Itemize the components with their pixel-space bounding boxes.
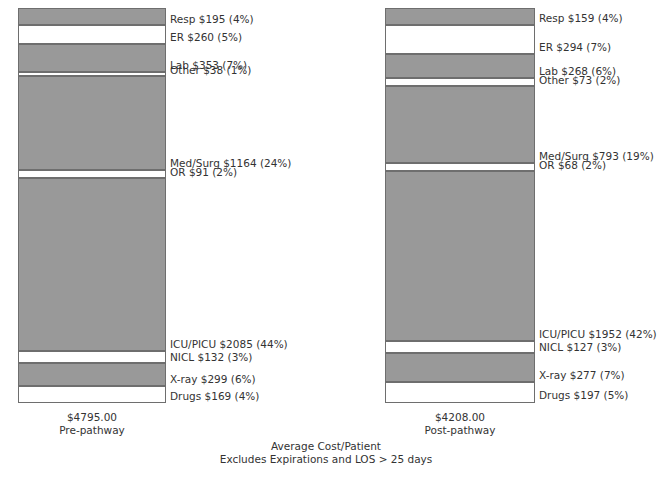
segment-label-pre-pathway: Resp $195 (4%) <box>170 14 254 25</box>
bar-segment-pre-pathway[interactable] <box>19 76 165 170</box>
stacked-bar-pre-pathway[interactable] <box>18 8 166 403</box>
bar-segment-post-pathway[interactable] <box>386 353 534 381</box>
segment-label-post-pathway: OR $68 (2%) <box>539 160 606 171</box>
bar-segment-pre-pathway[interactable] <box>19 170 165 178</box>
segment-label-pre-pathway: X-ray $299 (6%) <box>170 374 256 385</box>
total-caption-post-pathway: Post-pathway <box>385 424 535 437</box>
segment-label-post-pathway: Drugs $197 (5%) <box>539 390 628 401</box>
chart-column-post-pathway: Resp $159 (4%)ER $294 (7%)Lab $268 (6%)O… <box>385 8 535 403</box>
bar-segment-post-pathway[interactable] <box>386 86 534 163</box>
bar-segment-post-pathway[interactable] <box>386 382 534 402</box>
bar-segment-post-pathway[interactable] <box>386 25 534 53</box>
total-amount-pre-pathway: $4795.00 <box>18 411 166 424</box>
bar-segment-pre-pathway[interactable] <box>19 25 165 45</box>
segment-label-pre-pathway: Other $38 (1%) <box>170 65 251 76</box>
bar-segment-pre-pathway[interactable] <box>19 9 165 25</box>
bar-segment-post-pathway[interactable] <box>386 54 534 78</box>
segment-label-post-pathway: Resp $159 (4%) <box>539 13 623 24</box>
segment-label-post-pathway: ICU/PICU $1952 (42%) <box>539 329 657 340</box>
total-caption-pre-pathway: Pre-pathway <box>18 424 166 437</box>
bar-segment-pre-pathway[interactable] <box>19 363 165 387</box>
total-amount-post-pathway: $4208.00 <box>385 411 535 424</box>
segment-label-pre-pathway: ICU/PICU $2085 (44%) <box>170 339 288 350</box>
figure-caption: Average Cost/Patient Excludes Expiration… <box>176 440 476 466</box>
bar-segment-post-pathway[interactable] <box>386 9 534 25</box>
segment-label-pre-pathway: ER $260 (5%) <box>170 32 242 43</box>
total-block-pre-pathway: $4795.00 Pre-pathway <box>18 411 166 437</box>
segment-label-pre-pathway: NICL $132 (3%) <box>170 352 252 363</box>
bar-segment-pre-pathway[interactable] <box>19 386 165 402</box>
stacked-bar-post-pathway[interactable] <box>385 8 535 403</box>
caption-line-subtitle: Excludes Expirations and LOS > 25 days <box>176 453 476 466</box>
bar-segment-pre-pathway[interactable] <box>19 44 165 72</box>
segment-label-post-pathway: X-ray $277 (7%) <box>539 370 625 381</box>
segment-label-post-pathway: Other $73 (2%) <box>539 75 620 86</box>
bar-segment-post-pathway[interactable] <box>386 341 534 353</box>
bar-segment-post-pathway[interactable] <box>386 171 534 341</box>
segment-label-pre-pathway: Drugs $169 (4%) <box>170 391 259 402</box>
bar-segment-post-pathway[interactable] <box>386 78 534 86</box>
segment-label-group-post-pathway: Resp $159 (4%)ER $294 (7%)Lab $268 (6%)O… <box>539 8 662 403</box>
bar-segment-post-pathway[interactable] <box>386 163 534 171</box>
segment-label-group-pre-pathway: Resp $195 (4%)ER $260 (5%)Lab $353 (7%)O… <box>170 8 350 403</box>
segment-label-post-pathway: ER $294 (7%) <box>539 42 611 53</box>
caption-line-title: Average Cost/Patient <box>176 440 476 453</box>
figure-canvas: Resp $195 (4%)ER $260 (5%)Lab $353 (7%)O… <box>0 0 662 478</box>
page-edge-artifact <box>4 469 124 478</box>
chart-column-pre-pathway: Resp $195 (4%)ER $260 (5%)Lab $353 (7%)O… <box>18 8 166 403</box>
segment-label-pre-pathway: OR $91 (2%) <box>170 167 237 178</box>
bar-segment-pre-pathway[interactable] <box>19 178 165 351</box>
segment-label-post-pathway: NICL $127 (3%) <box>539 342 621 353</box>
bar-segment-pre-pathway[interactable] <box>19 351 165 363</box>
total-block-post-pathway: $4208.00 Post-pathway <box>385 411 535 437</box>
